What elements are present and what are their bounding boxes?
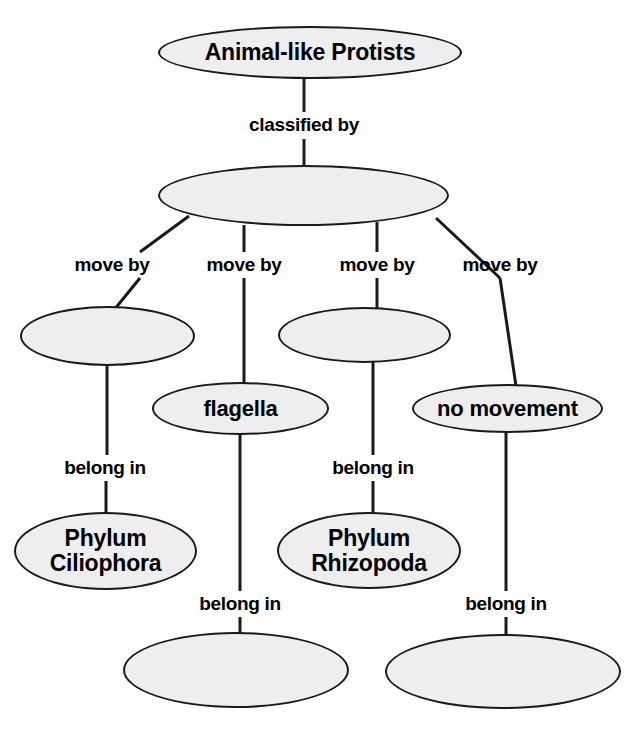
node-no-movement[interactable]: no movement	[412, 384, 603, 433]
node-cilia[interactable]	[20, 306, 195, 366]
link-label-classified-by: classified by	[249, 114, 359, 136]
link-label-move-by-2: move by	[207, 254, 282, 276]
edge-movby4-to-nomovement	[500, 278, 516, 386]
edge-movby1-to-cilia	[114, 278, 140, 310]
node-classes[interactable]	[158, 165, 449, 226]
node-sporozoa[interactable]	[385, 634, 621, 709]
node-ciliophora[interactable]: Phylum Ciliophora	[14, 512, 197, 590]
link-label-move-by-3: move by	[340, 254, 415, 276]
edge-layer	[0, 0, 640, 732]
link-label-move-by-1: move by	[75, 254, 150, 276]
node-label-flagella: flagella	[197, 397, 283, 421]
link-label-move-by-4: move by	[463, 254, 538, 276]
link-label-belong-in-4: belong in	[465, 593, 547, 615]
node-label-ciliophora: Phylum Ciliophora	[44, 526, 168, 576]
edge-classes-to-movby1-up	[140, 216, 189, 252]
node-rhizopoda[interactable]: Phylum Rhizopoda	[277, 512, 461, 589]
node-label-no-movement: no movement	[431, 397, 584, 421]
link-label-belong-in-3: belong in	[199, 593, 281, 615]
node-zoomastigina[interactable]	[123, 632, 349, 708]
link-label-belong-in-1: belong in	[64, 457, 146, 479]
node-pseudopods[interactable]	[278, 307, 451, 363]
node-label-rhizopoda: Phylum Rhizopoda	[305, 526, 433, 576]
concept-map: Animal-like Protistsflagellano movementP…	[0, 0, 640, 732]
node-root[interactable]: Animal-like Protists	[158, 26, 462, 79]
node-label-root: Animal-like Protists	[199, 40, 422, 65]
node-flagella[interactable]: flagella	[152, 382, 329, 435]
link-label-belong-in-2: belong in	[332, 457, 414, 479]
